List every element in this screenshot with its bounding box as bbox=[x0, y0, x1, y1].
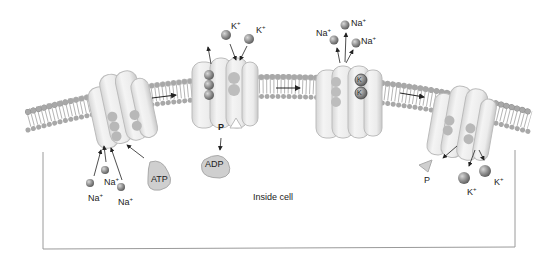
pump-stage-1 bbox=[84, 67, 160, 150]
step-arrow-3 bbox=[400, 93, 424, 97]
k-label: K+ bbox=[231, 20, 241, 31]
na-ion bbox=[352, 39, 361, 48]
pump-stage-2 bbox=[192, 58, 258, 128]
k-ion bbox=[244, 34, 254, 44]
k-ion bbox=[221, 30, 231, 40]
pump-stage-3 bbox=[316, 66, 382, 138]
k-ion bbox=[458, 172, 470, 184]
na-label: Na+ bbox=[118, 196, 133, 207]
adp-label: ADP bbox=[205, 160, 224, 169]
k-label: K+ bbox=[467, 186, 477, 197]
bound-k-label: K bbox=[357, 76, 362, 83]
k-ion bbox=[479, 165, 491, 177]
k-label: K+ bbox=[256, 24, 266, 35]
na-label: Na+ bbox=[351, 17, 366, 28]
na-label: Na+ bbox=[104, 176, 119, 187]
k-label: K+ bbox=[494, 176, 504, 187]
inside-cell-label: Inside cell bbox=[253, 193, 293, 202]
phosphate bbox=[419, 160, 432, 172]
sodium-potassium-pump-diagram: Na+ Na+ Na+ ATP K+ K+ P ADP Na+ Na+ Na+ … bbox=[0, 0, 552, 263]
diagram-canvas bbox=[0, 0, 552, 263]
na-ion bbox=[101, 166, 109, 174]
phosphate-label: P bbox=[424, 176, 430, 185]
na-label: Na+ bbox=[316, 27, 331, 38]
na-label: Na+ bbox=[88, 192, 103, 203]
na-label: Na+ bbox=[361, 35, 376, 46]
na-ion bbox=[341, 21, 350, 30]
pump-stage-4 bbox=[425, 82, 499, 164]
na-ion bbox=[86, 179, 94, 187]
atp-label: ATP bbox=[151, 175, 168, 184]
phosphate-label: P bbox=[218, 123, 224, 132]
bound-k-label: K bbox=[357, 89, 362, 96]
